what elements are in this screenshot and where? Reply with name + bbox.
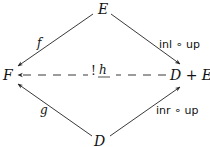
arrow-g <box>18 84 92 136</box>
label-h-unique-mark: ! <box>91 64 96 78</box>
arrow-f <box>18 14 93 66</box>
label-g: g <box>40 103 48 117</box>
node-d: D <box>93 133 105 147</box>
node-f: F <box>2 67 14 83</box>
commutative-diagram: E F D + E D f inl ∘ up g inr ∘ up ! h <box>0 0 210 147</box>
node-d-plus-e: D + E <box>169 67 210 83</box>
label-inl-up: inl ∘ up <box>159 38 200 51</box>
label-inr-up: inr ∘ up <box>156 104 198 117</box>
label-f: f <box>36 36 44 50</box>
label-h: h <box>99 63 107 77</box>
node-e: E <box>97 1 108 17</box>
